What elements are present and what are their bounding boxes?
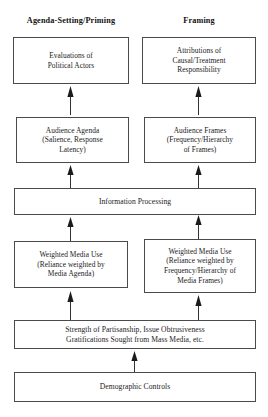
- arrow-audience-agenda-to-evaluations: [66, 86, 75, 115]
- arrow-information-processing-to-audience-agenda: [66, 165, 75, 188]
- node-information-processing: Information Processing: [14, 188, 256, 215]
- flowchart-diagram: Agenda-Setting/Priming Framing Evaluatio…: [0, 0, 268, 417]
- node-demographic-controls: Demographic Controls: [14, 372, 256, 402]
- arrow-weighted-media-use-agenda-to-information-processing: [66, 217, 75, 241]
- node-label: Attributions of Causal/Treatment Respons…: [169, 46, 228, 75]
- arrow-up-icon: [194, 295, 203, 320]
- column-header-framing: Framing: [142, 16, 256, 26]
- arrow-up-icon: [66, 217, 75, 241]
- node-weighted-media-use-media-agenda: Weighted Media Use (Reliance weighted by…: [14, 241, 128, 288]
- arrow-demographic-controls-to-partisanship: [130, 351, 139, 372]
- arrow-up-icon: [66, 86, 75, 115]
- node-label: Evaluations of Political Actors: [45, 51, 98, 70]
- arrow-up-icon: [66, 165, 75, 188]
- node-label: Weighted Media Use (Reliance weighted by…: [161, 247, 239, 285]
- node-weighted-media-use-media-frames: Weighted Media Use (Reliance weighted by…: [144, 239, 256, 293]
- node-label: Strength of Partisanship, Issue Obtrusiv…: [62, 325, 208, 345]
- arrow-up-icon: [194, 165, 203, 188]
- arrow-weighted-media-use-frames-to-information-processing: [194, 215, 203, 239]
- arrow-up-icon: [130, 351, 139, 372]
- node-strength-of-partisanship: Strength of Partisanship, Issue Obtrusiv…: [14, 320, 256, 349]
- arrow-information-processing-to-audience-frames: [194, 165, 203, 188]
- node-audience-agenda: Audience Agenda (Salience, Response Late…: [16, 117, 129, 163]
- arrow-partisanship-to-weighted-media-use-frames: [194, 295, 203, 320]
- node-evaluations-of-political-actors: Evaluations of Political Actors: [13, 37, 129, 84]
- node-audience-frames: Audience Frames (Frequency/Hierarchy of …: [144, 117, 256, 163]
- arrow-up-icon: [66, 291, 75, 320]
- column-header-agenda-setting-priming: Agenda-Setting/Priming: [13, 16, 129, 26]
- node-label: Audience Frames (Frequency/Hierarchy of …: [164, 126, 236, 155]
- node-label: Weighted Media Use (Reliance weighted by…: [34, 250, 108, 279]
- arrow-partisanship-to-weighted-media-use-agenda: [66, 291, 75, 320]
- node-label: Demographic Controls: [97, 382, 173, 392]
- node-attributions-of-causal-treatment-responsibility: Attributions of Causal/Treatment Respons…: [142, 37, 256, 84]
- node-label: Audience Agenda (Salience, Response Late…: [39, 126, 105, 155]
- node-label: Information Processing: [96, 197, 174, 207]
- arrow-up-icon: [194, 86, 203, 115]
- arrow-up-icon: [194, 215, 203, 239]
- arrow-audience-frames-to-attributions: [194, 86, 203, 115]
